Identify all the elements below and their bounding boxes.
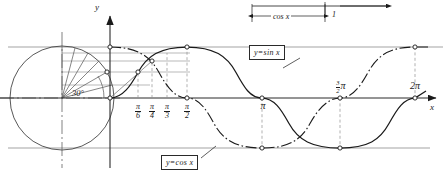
point-sin-3pi-2 xyxy=(338,146,342,150)
point-cos-pi-2 xyxy=(185,96,189,100)
tick-label-pi-2: π 2 xyxy=(180,103,194,121)
tick-3pi-2-suffix: π xyxy=(341,80,346,91)
angle-label-30deg: 30° xyxy=(72,88,84,98)
point-cos-2pi xyxy=(413,45,417,49)
point-sin-2pi xyxy=(413,96,417,100)
tick-label-3pi-2: 3 2 π xyxy=(330,80,352,94)
y-axis-label: y xyxy=(95,3,99,12)
point-sin-pi-2 xyxy=(185,45,189,49)
legend-cos-box[interactable]: y=cos x xyxy=(161,155,198,170)
tick-label-2pi: 2π xyxy=(404,81,426,91)
tick-pi-3-denominator: 3 xyxy=(164,112,170,120)
legend-sin-box[interactable]: y=sin x xyxy=(249,45,285,60)
point-sin-origin xyxy=(108,96,112,100)
point-circle-30deg xyxy=(105,70,109,74)
legend-sin-leader xyxy=(283,58,300,68)
tick-pi-4-denominator: 4 xyxy=(149,112,155,120)
x-axis-label: x xyxy=(430,103,434,112)
point-cos-3pi-2 xyxy=(338,96,342,100)
tick-label-pi: π xyxy=(257,101,269,111)
cosine-projection-helper xyxy=(110,61,152,98)
figure-canvas: y x 30° cos x 1 π 6 π 4 π 3 π 2 π 3 2 xyxy=(0,0,443,179)
dimension-label-cos-x: cos x xyxy=(271,12,291,21)
tick-pi-2-denominator: 2 xyxy=(184,112,190,120)
point-cos-zero xyxy=(108,45,112,49)
radius-15deg xyxy=(62,85,112,98)
trigonometry-diagram xyxy=(0,0,443,179)
tick-3pi-2-denominator: 2 xyxy=(336,88,339,95)
tick-label-pi-3: π 3 xyxy=(160,103,174,121)
point-cos-pi xyxy=(260,146,264,150)
dimension-label-unit: 1 xyxy=(330,10,338,19)
point-sin-pi-6 xyxy=(136,70,140,74)
tick-label-pi-6: π 6 xyxy=(131,103,145,121)
tick-pi-6-denominator: 6 xyxy=(135,112,141,120)
tick-label-pi-4: π 4 xyxy=(145,103,159,121)
point-sin-pi-4 xyxy=(150,59,154,63)
projection-lines-group xyxy=(62,53,190,85)
